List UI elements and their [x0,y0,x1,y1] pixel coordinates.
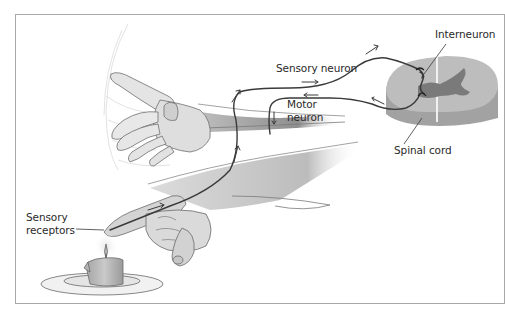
arrow-icon [232,90,240,102]
label-motor-neuron-line1: Motor [287,98,317,111]
arrow-icon [366,45,378,54]
sensory-receptors-leader [76,229,104,230]
label-sensory-receptors-line2: receptors [26,224,75,237]
spinal-cord-cross-section [386,56,498,126]
arrow-icon [372,97,384,104]
label-sensory-neuron: Sensory neuron [276,62,357,75]
arrow-icon [304,93,318,97]
label-sensory-receptors-line1: Sensory [26,211,68,224]
label-motor-neuron-line2: neuron [287,111,323,124]
hand-over-candle [104,142,360,266]
label-spinal-cord: Spinal cord [394,144,452,157]
label-interneuron: Interneuron [435,28,495,41]
arrow-icon [302,80,318,84]
candle-on-plate [41,232,163,295]
